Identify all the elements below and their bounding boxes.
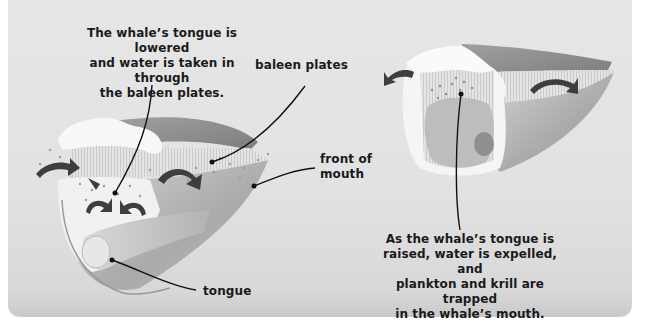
caption-line: and water is taken in through [62, 56, 262, 86]
caption-tongue-lowered: The whale’s tongue is lowered and water … [62, 26, 262, 101]
label-line: front of [320, 152, 380, 167]
caption-tongue-raised: As the whale’s tongue is raised, water i… [370, 232, 570, 322]
caption-line: raised, water is expelled, and [370, 247, 570, 277]
caption-line: plankton and krill are trapped [370, 277, 570, 307]
label-tongue: tongue [203, 284, 263, 299]
label-baleen-plates: baleen plates [255, 58, 365, 73]
caption-line: The whale’s tongue is lowered [62, 26, 262, 56]
caption-line: in the whale’s mouth. [370, 307, 570, 322]
right-whale-mouth [384, 44, 614, 176]
label-front-of-mouth: front of mouth [320, 152, 380, 182]
caption-line: the baleen plates. [62, 86, 262, 101]
left-whale-mouth [36, 117, 269, 294]
caption-line: As the whale’s tongue is [370, 232, 570, 247]
label-line: mouth [320, 167, 380, 182]
